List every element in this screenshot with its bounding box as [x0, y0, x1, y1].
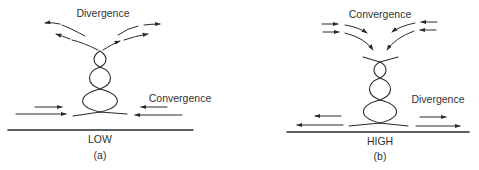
panel-b-caption: (b) — [374, 150, 387, 162]
panel-a-bottom-label: Convergence — [149, 92, 212, 104]
panel-b-helix — [349, 57, 408, 126]
arrow-lower-right-a — [103, 41, 120, 50]
arrow-upper-right-tip-a — [144, 24, 160, 25]
panel-a-low-pressure: Divergence Convergence — [8, 7, 211, 161]
arrow-upper-left-outer-a — [62, 25, 85, 36]
arrow-lower-left-curve-b — [345, 33, 373, 50]
arrow-upper-right-a — [118, 26, 138, 35]
arrow-lower-left-tip-a — [56, 34, 70, 39]
panel-a-divergence-arrows — [45, 23, 160, 50]
panel-b-bottom-label: Divergence — [411, 93, 464, 105]
panel-a-helix — [73, 51, 127, 116]
panel-b-divergence-arrows — [297, 116, 460, 126]
panel-a-top-label: Divergence — [76, 7, 129, 19]
panel-b-high-pressure: Convergence Divergence — [287, 8, 469, 162]
arrow-upper-left-tip-a — [45, 23, 60, 24]
panel-a-convergence-arrows — [16, 107, 182, 115]
pressure-systems-diagram: Divergence Convergence — [0, 0, 479, 170]
panel-a-caption: (a) — [94, 149, 107, 161]
panel-b-top-label: Convergence — [349, 8, 412, 20]
panel-b-pressure-label: HIGH — [367, 135, 393, 147]
arrow-lower-right-curve-b — [387, 31, 414, 50]
arrow-upper-right-curve-b — [392, 23, 415, 32]
arrow-lower-right-tip-a — [124, 34, 148, 40]
panel-b-convergence-arrows — [322, 22, 437, 50]
arrow-lower-left-a — [72, 40, 98, 50]
arrow-upper-left-curve-b — [345, 25, 367, 33]
panel-a-pressure-label: LOW — [88, 133, 112, 145]
